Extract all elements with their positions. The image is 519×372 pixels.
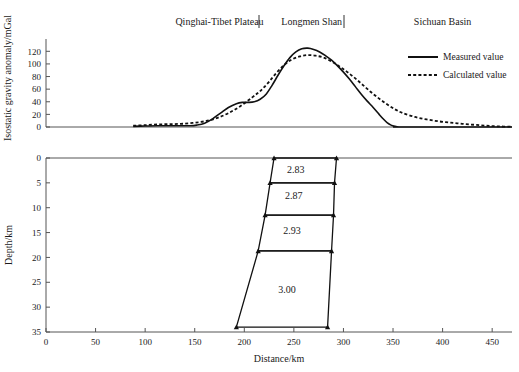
distance-tick-label: 150 bbox=[188, 337, 202, 347]
density-bodies: 2.832.872.933.00 bbox=[236, 158, 336, 327]
depth-tick-label: 30 bbox=[32, 302, 42, 312]
distance-tick-label: 0 bbox=[44, 337, 49, 347]
depth-axis-title: Depth/km bbox=[3, 225, 14, 265]
distance-axis-title: Distance/km bbox=[254, 353, 305, 364]
bottom-axis-lines bbox=[46, 158, 512, 332]
legend: Measured valueCalculated value bbox=[408, 52, 507, 80]
depth-tick-label: 0 bbox=[37, 153, 42, 163]
legend-label-measured: Measured value bbox=[443, 52, 503, 62]
figure-container: 020406080100120Isostatic gravity anomaly… bbox=[0, 0, 519, 372]
distance-tick-label: 350 bbox=[386, 337, 400, 347]
depth-tick-label: 25 bbox=[32, 277, 42, 287]
distance-tick-label: 250 bbox=[287, 337, 301, 347]
depth-tick-label: 15 bbox=[32, 228, 42, 238]
tectonic-annotations: Qinghai-Tibet PlateauLongmen ShanSichuan… bbox=[175, 15, 471, 28]
distance-tick-label: 300 bbox=[337, 337, 351, 347]
density-model-chart: 0510152025303505010015020025030035040045… bbox=[0, 145, 519, 372]
depth-tick-label: 10 bbox=[32, 203, 42, 213]
top-y-tick-label: 20 bbox=[32, 110, 42, 120]
distance-tick-label: 100 bbox=[138, 337, 152, 347]
distance-tick-label: 50 bbox=[91, 337, 101, 347]
density-value-label: 2.93 bbox=[283, 225, 301, 236]
top-y-tick-label: 40 bbox=[32, 97, 42, 107]
depth-tick-label: 35 bbox=[32, 327, 42, 337]
depth-tick-label: 20 bbox=[32, 253, 42, 263]
model-vertices bbox=[234, 155, 339, 329]
top-y-tick-label: 0 bbox=[37, 122, 42, 132]
depth-tick-label: 5 bbox=[37, 178, 42, 188]
density-value-label: 2.83 bbox=[287, 164, 305, 175]
top-y-tick-label: 60 bbox=[32, 84, 42, 94]
distance-tick-label: 200 bbox=[238, 337, 252, 347]
distance-tick-label: 400 bbox=[436, 337, 450, 347]
density-value-label: 2.87 bbox=[285, 190, 303, 201]
legend-label-calculated: Calculated value bbox=[443, 70, 507, 80]
top-axes: 020406080100120Isostatic gravity anomaly… bbox=[2, 15, 512, 141]
annotation-longmen-shan: Longmen Shan bbox=[281, 16, 342, 27]
top-y-tick-label: 120 bbox=[28, 47, 42, 57]
annotation-qinghai-tibet-plateau: Qinghai-Tibet Plateau bbox=[175, 16, 263, 27]
annotation-sichuan-basin: Sichuan Basin bbox=[414, 16, 472, 27]
top-y-tick-label: 100 bbox=[28, 59, 42, 69]
curve-calculated-value bbox=[133, 55, 512, 127]
top-y-tick-label: 80 bbox=[32, 72, 42, 82]
density-value-label: 3.00 bbox=[278, 284, 296, 295]
distance-tick-label: 450 bbox=[485, 337, 499, 347]
gravity-anomaly-chart: 020406080100120Isostatic gravity anomaly… bbox=[0, 0, 519, 150]
bottom-axes: 0510152025303505010015020025030035040045… bbox=[3, 153, 512, 364]
top-y-axis-title: Isostatic gravity anomaly/mGal bbox=[2, 15, 13, 141]
